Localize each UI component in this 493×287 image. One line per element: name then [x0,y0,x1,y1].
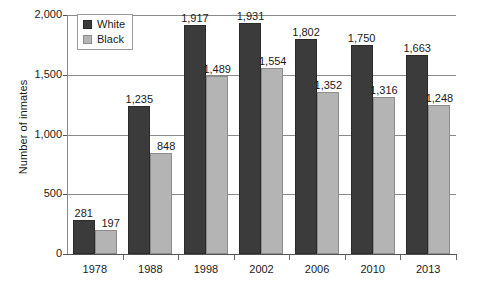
bar-value-label: 197 [101,217,119,229]
bar-black-1988[interactable]: 848 [150,153,172,254]
x-axis-tick-mark [289,255,290,260]
x-axis-label-1998: 1998 [194,263,218,275]
bar-group: 281197 [67,15,123,254]
bar-value-label: 848 [157,140,175,152]
bar-group: 1,9311,554 [234,15,290,254]
x-axis-tick-mark [123,255,124,260]
bar-value-label: 1,931 [237,10,265,22]
x-axis-label-1988: 1988 [138,263,162,275]
black-series-swatch [83,35,92,44]
y-axis-tick-labels: 05001,0001,5002,000 [16,0,62,287]
bar-white-1978[interactable]: 281 [73,220,95,254]
x-axis-label-2006: 2006 [305,263,329,275]
x-axis-label-1978: 1978 [83,263,107,275]
legend-item-white[interactable]: White [83,18,125,31]
bar-white-2006[interactable]: 1,802 [295,39,317,254]
bar-value-label: 1,554 [259,55,287,67]
bar-group: 1,235848 [123,15,179,254]
chart-legend: WhiteBlack [77,14,133,50]
y-axis-tick-label: 500 [18,188,62,199]
legend-item-black[interactable]: Black [83,33,125,46]
y-axis-tick-label: 1,000 [18,129,62,140]
y-axis-tick-label: 2,000 [18,9,62,20]
bar-group: 1,9171,489 [178,15,234,254]
x-axis-tick-mark [178,255,179,260]
bar-value-label: 1,248 [426,92,454,104]
x-axis-tick-mark [234,255,235,260]
bar-value-label: 1,489 [203,63,231,75]
plot-area: 2811971,2358481,9171,4891,9311,5541,8021… [67,15,456,254]
bar-value-label: 1,352 [315,79,343,91]
y-axis-tick-mark [63,254,67,255]
x-axis-label-2010: 2010 [360,263,384,275]
bar-white-2013[interactable]: 1,663 [406,55,428,254]
bar-white-1998[interactable]: 1,917 [184,25,206,254]
white-series-swatch [83,20,92,29]
bar-value-label: 1,235 [126,93,154,105]
bar-group: 1,8021,352 [289,15,345,254]
bar-white-1988[interactable]: 1,235 [128,106,150,254]
x-axis-label-2002: 2002 [249,263,273,275]
bar-group: 1,6631,248 [400,15,456,254]
x-axis-tick-mark [456,255,457,260]
bar-black-2010[interactable]: 1,316 [373,97,395,254]
bar-value-label: 1,802 [292,26,320,38]
x-axis-tick-mark [345,255,346,260]
bar-white-2010[interactable]: 1,750 [351,45,373,254]
x-axis-tick-mark [400,255,401,260]
legend-item-label: White [97,18,125,31]
bar-black-2002[interactable]: 1,554 [261,68,283,254]
bar-value-label: 1,663 [403,42,431,54]
y-axis-tick-label: 0 [18,248,62,259]
bar-black-2006[interactable]: 1,352 [317,92,339,254]
bar-black-2013[interactable]: 1,248 [428,105,450,254]
bar-chart: Number of inmates 05001,0001,5002,000 28… [0,0,493,287]
bar-black-1978[interactable]: 197 [95,230,117,254]
bar-value-label: 281 [75,207,93,219]
legend-item-label: Black [97,33,124,46]
bar-value-label: 1,750 [348,32,376,44]
bar-group: 1,7501,316 [345,15,401,254]
y-axis-tick-label: 1,500 [18,69,62,80]
bar-black-1998[interactable]: 1,489 [206,76,228,254]
x-axis-label-2013: 2013 [416,263,440,275]
bar-value-label: 1,316 [370,84,398,96]
bar-value-label: 1,917 [181,12,209,24]
x-axis-line [67,254,457,255]
